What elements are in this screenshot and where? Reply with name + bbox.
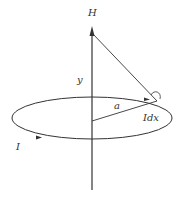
- current-element-label-Idx: Idx: [143, 113, 159, 123]
- axis-distance-label-y: y: [77, 75, 83, 85]
- radius-label-a: a: [114, 101, 120, 111]
- current-element-arrow-icon: [144, 98, 150, 102]
- distance-line: [92, 33, 157, 101]
- current-label-I: I: [16, 142, 20, 152]
- angle-arc: [151, 92, 160, 99]
- field-label-H: H: [88, 8, 97, 18]
- current-loop-diagram: [0, 0, 180, 206]
- current-direction-arrow-icon: [36, 136, 42, 140]
